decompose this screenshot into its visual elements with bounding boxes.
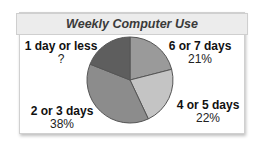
label-6-or-7-days: 6 or 7 days 21% [160,40,240,66]
label-4-or-5-days: 4 or 5 days 22% [170,99,246,125]
label-2-or-3-days: 2 or 3 days 38% [22,105,102,131]
label-1-day-or-less: 1 day or less ? [24,40,98,66]
